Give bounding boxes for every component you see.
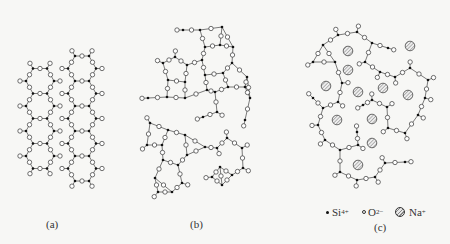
- silicon-atom: [95, 67, 98, 70]
- silicon-atom: [32, 167, 35, 170]
- silicon-atom: [32, 67, 35, 70]
- silicon-atom: [53, 155, 56, 158]
- silicon-atom: [219, 44, 222, 47]
- silicon-atom: [67, 92, 70, 95]
- oxygen-atom: [421, 116, 425, 120]
- oxygen-atom: [200, 36, 204, 40]
- oxygen-atom: [346, 80, 350, 84]
- silicon-atom: [67, 117, 70, 120]
- silicon-atom: [204, 146, 207, 149]
- oxygen-atom: [80, 129, 84, 133]
- silicon-atom: [53, 105, 56, 108]
- oxygen-atom: [27, 73, 31, 77]
- silicon-atom: [154, 177, 157, 180]
- oxygen-atom: [18, 79, 22, 83]
- oxygen-atom: [319, 130, 323, 134]
- silicon-atom: [186, 154, 189, 157]
- silicon-atom: [232, 46, 235, 49]
- oxygen-atom: [80, 154, 84, 158]
- oxygen-atom: [217, 151, 221, 155]
- silicon-atom: [95, 167, 98, 170]
- oxygen-atom: [370, 65, 374, 69]
- panel-a-label: (a): [46, 218, 58, 230]
- oxygen-atom: [140, 147, 144, 151]
- oxygen-atom: [195, 117, 199, 121]
- oxygen-atom: [381, 130, 385, 134]
- oxygen-atom: [346, 174, 350, 178]
- oxygen-atom: [354, 184, 358, 188]
- silicon-atom: [356, 179, 359, 182]
- legend-na-text: Na: [409, 206, 422, 218]
- oxygen-atom: [69, 148, 73, 152]
- oxygen-atom: [245, 90, 249, 94]
- silicon-atom: [184, 134, 187, 137]
- oxygen-atom: [394, 128, 398, 132]
- oxygen-atom: [408, 60, 412, 64]
- oxygen-atom: [48, 85, 52, 89]
- oxygen-atom: [90, 73, 94, 77]
- oxygen-atom: [219, 34, 223, 38]
- oxygen-atom: [385, 115, 389, 119]
- silicon-atom: [221, 184, 224, 187]
- silicon-atom: [162, 62, 165, 65]
- oxygen-atom: [38, 91, 42, 95]
- oxygen-atom: [357, 62, 361, 66]
- sodium-ion: [343, 46, 353, 56]
- oxygen-atom: [58, 154, 62, 158]
- oxygen-atom: [18, 104, 22, 108]
- oxygen-atom: [69, 110, 73, 114]
- sodium-ion: [321, 81, 331, 91]
- oxygen-atom: [214, 100, 218, 104]
- silicon-atom: [334, 61, 337, 64]
- oxygen-atom: [175, 185, 179, 189]
- silicon-atom: [184, 97, 187, 100]
- oxygen-atom: [163, 69, 167, 73]
- oxygen-atom: [234, 85, 238, 89]
- oxygen-atom: [356, 24, 360, 28]
- silicon-atom: [32, 92, 35, 95]
- oxygen-atom: [338, 159, 342, 163]
- silicon-atom: [32, 142, 35, 145]
- silicon-atom: [74, 180, 77, 183]
- oxygen-atom: [48, 171, 52, 175]
- oxygen-atom: [48, 98, 52, 102]
- oxygen-atom: [179, 59, 183, 63]
- silicon-atom: [317, 124, 320, 127]
- oxygen-atom: [376, 180, 380, 184]
- oxygen-atom: [194, 149, 198, 153]
- oxygen-atom: [27, 123, 31, 127]
- silicon-atom: [322, 107, 325, 110]
- oxygen-atom: [354, 124, 358, 128]
- silicon-atom: [88, 155, 91, 158]
- legend-na: Na+: [395, 206, 426, 218]
- oxygen-atom: [69, 85, 73, 89]
- oxygen-atom: [80, 79, 84, 83]
- oxygen-atom: [361, 146, 365, 150]
- oxygen-atom: [90, 49, 94, 53]
- legend-si: Si4+: [326, 206, 349, 218]
- oxygen-atom: [209, 26, 213, 30]
- oxygen-atom: [28, 171, 32, 175]
- na-hatched-circle-icon: [395, 207, 405, 217]
- silicon-atom: [371, 42, 374, 45]
- oxygen-atom: [161, 183, 165, 187]
- oxygen-atom: [400, 70, 404, 74]
- oxygen-atom: [328, 38, 332, 42]
- oxygen-atom: [244, 80, 248, 84]
- oxygen-atom: [90, 123, 94, 127]
- oxygen-atom: [100, 141, 104, 145]
- oxygen-atom: [163, 190, 167, 194]
- oxygen-atom: [178, 172, 182, 176]
- sodium-ion: [367, 114, 377, 124]
- oxygen-atom: [28, 61, 32, 65]
- silicon-atom: [46, 142, 49, 145]
- oxygen-atom: [370, 92, 374, 96]
- silicon-atom: [95, 92, 98, 95]
- oxygen-atom: [38, 116, 42, 120]
- oxygen-atom: [27, 160, 31, 164]
- silicon-atom: [32, 117, 35, 120]
- oxygen-atom: [60, 141, 64, 145]
- silicon-atom: [384, 162, 387, 165]
- oxygen-atom: [48, 135, 52, 139]
- oxygen-atom: [60, 91, 64, 95]
